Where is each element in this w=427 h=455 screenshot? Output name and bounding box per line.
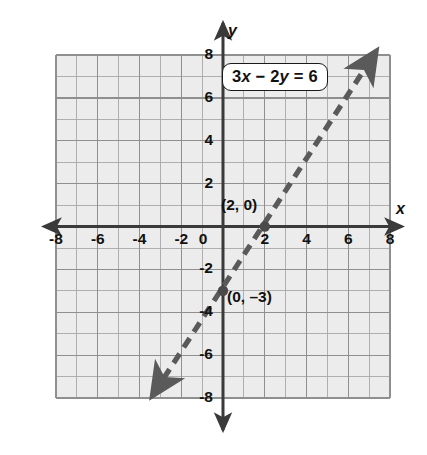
y-tick-label-4: 4 (181, 131, 213, 149)
y-tick-label-8: 8 (181, 45, 213, 63)
x-axis-label: x (396, 200, 405, 218)
y-tick-label-2: 2 (181, 174, 213, 192)
figure-root: 3x − 2y = 6 (2, 0) (0, –3) x y -8 -6 -4 … (0, 0, 427, 455)
equation-coefficient-x: 3 (232, 67, 241, 85)
y-tick-label-6: 6 (181, 88, 213, 106)
equation-variable-y: y (280, 67, 289, 85)
y-tick-label--4: -4 (181, 302, 213, 320)
point-label-0-minus3: (0, –3) (227, 288, 272, 306)
y-tick-label--2: -2 (181, 259, 213, 277)
point-label-2-0: (2, 0) (221, 196, 257, 214)
equation-variable-x: x (241, 67, 250, 85)
x-tick-label-8: 8 (371, 230, 409, 248)
x-tick-label--8: -8 (37, 230, 75, 248)
x-tick-label-2: 2 (246, 230, 284, 248)
x-tick-label--4: -4 (121, 230, 159, 248)
y-tick-label--8: -8 (181, 388, 213, 406)
x-tick-label-6: 6 (329, 230, 367, 248)
equation-equals: = (289, 67, 308, 85)
equation-coefficient-y: 2 (270, 67, 279, 85)
x-tick-label-4: 4 (288, 230, 326, 248)
y-tick-label--6: -6 (181, 345, 213, 363)
equation-label-box: 3x − 2y = 6 (222, 63, 328, 91)
equation-operator: − (251, 67, 270, 85)
y-axis-label: y (228, 22, 237, 40)
coordinate-plane-svg (0, 0, 427, 455)
equation-constant: 6 (308, 67, 317, 85)
x-tick-label-0: 0 (190, 230, 216, 248)
x-tick-label--6: -6 (79, 230, 117, 248)
